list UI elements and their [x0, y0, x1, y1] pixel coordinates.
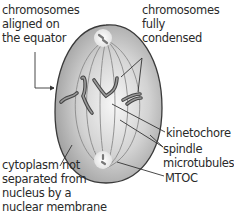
label-chromosomes-condensed: chromosomes fully condensed	[142, 3, 219, 45]
label-chromosomes-aligned: chromosomes aligned on the equator	[2, 3, 79, 45]
leader-aligned	[35, 52, 54, 88]
label-spindle-microtubules: spindle microtubules	[163, 142, 234, 170]
label-cytoplasm: cytoplasm not separated from nucleus by …	[2, 158, 107, 214]
label-kinetochore: kinetochore	[166, 126, 231, 140]
label-mtoc: MTOC	[165, 171, 198, 185]
mtoc-top	[94, 29, 112, 47]
